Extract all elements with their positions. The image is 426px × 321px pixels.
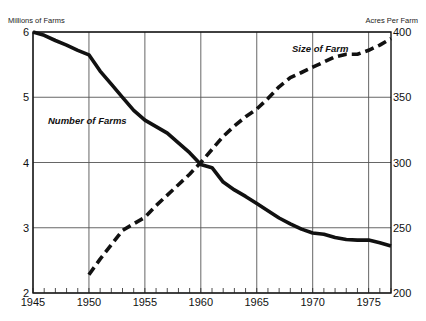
y-left-tick-label: 4 [23,157,29,169]
y-right-tick-label: 200 [393,287,411,299]
y-axis-left-title: Millions of Farms [8,16,65,25]
x-tick-label: 1955 [133,296,157,308]
grid [33,32,391,293]
x-tick-label: 1975 [356,296,380,308]
x-tick-label: 1950 [77,296,101,308]
x-axis-ticks [33,288,391,293]
x-tick-label: 1965 [245,296,269,308]
y-left-tick-label: 3 [23,222,29,234]
y-right-tick-label: 350 [393,91,411,103]
series-lines [33,32,391,275]
y-right-tick-label: 250 [393,222,411,234]
series-label-size-of-farm: Size of Farm [292,43,349,54]
y-right-tick-label: 300 [393,157,411,169]
y-right-tick-label: 400 [393,26,411,38]
series-label-number-of-farms: Number of Farms [48,115,127,126]
series-line-number-of-farms [33,32,391,246]
x-tick-label: 1960 [189,296,213,308]
y-left-tick-label: 6 [23,26,29,38]
y-axis-right-title: Acres Per Farm [365,16,418,25]
y-left-tick-label: 5 [23,91,29,103]
farm-chart: 2345620025030035040019451950195519601965… [0,0,426,321]
axes: 2345620025030035040019451950195519601965… [21,26,412,308]
x-tick-label: 1970 [300,296,324,308]
x-tick-label: 1945 [21,296,45,308]
